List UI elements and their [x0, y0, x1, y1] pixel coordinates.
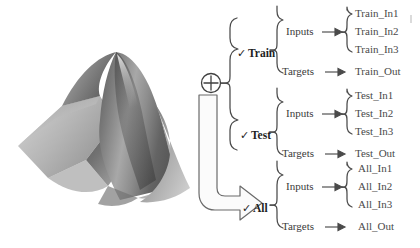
- group-name-all: All: [253, 202, 268, 214]
- row-role-inputs-test: Inputs: [286, 108, 314, 119]
- group-name-test: Test: [251, 129, 271, 141]
- diagram-canvas: ✓Train Inputs Train_In1 Train_In2 Train_…: [0, 0, 420, 248]
- value-train-out: Train_Out: [355, 66, 400, 77]
- value-train-in1: Train_In1: [355, 8, 399, 19]
- value-all-in3: All_In3: [358, 199, 392, 210]
- value-train-in3: Train_In3: [355, 44, 399, 55]
- check-icon-all: ✓: [242, 203, 251, 214]
- arrow-inputs-train: [322, 28, 342, 35]
- value-all-in1: All_In1: [358, 163, 392, 174]
- row-role-targets-test: Targets: [282, 148, 314, 159]
- arrow-targets-test: [325, 150, 345, 157]
- arrow-inputs-test: [322, 110, 342, 117]
- connector-layer: [0, 0, 420, 248]
- row-role-targets-all: Targets: [282, 221, 314, 232]
- value-test-out: Test_Out: [355, 148, 395, 159]
- arrow-inputs-all: [322, 183, 342, 190]
- group-name-train: Train: [248, 47, 275, 59]
- row-role-inputs-train: Inputs: [286, 26, 314, 37]
- row-role-targets-train: Targets: [282, 66, 314, 77]
- group-label-all[interactable]: ✓All: [242, 199, 268, 215]
- value-train-in2: Train_In2: [355, 26, 399, 37]
- value-test-in3: Test_In3: [355, 126, 393, 137]
- check-icon-train: ✓: [237, 48, 246, 59]
- scan-artifact: [410, 15, 412, 23]
- row-role-inputs-all: Inputs: [286, 181, 314, 192]
- group-label-train[interactable]: ✓Train: [237, 44, 275, 60]
- arrow-targets-all: [325, 223, 345, 230]
- group-label-test[interactable]: ✓Test: [240, 126, 271, 142]
- value-test-in1: Test_In1: [355, 90, 393, 101]
- value-all-out: All_Out: [358, 221, 394, 232]
- arrow-targets-train: [325, 68, 345, 75]
- check-icon-test: ✓: [240, 130, 249, 141]
- value-test-in2: Test_In2: [355, 108, 393, 119]
- circle-plus-icon: [202, 74, 221, 93]
- value-all-in2: All_In2: [358, 181, 392, 192]
